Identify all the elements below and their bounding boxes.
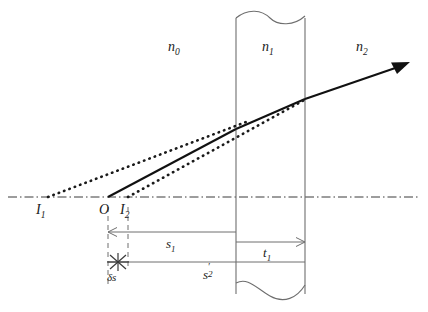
virtual-ray-from-i2 [128, 99, 306, 197]
slab-bottom-break-line [236, 281, 305, 299]
label-n0: n0 [168, 40, 180, 57]
label-t1: t1 [263, 246, 271, 262]
label-o: O [99, 203, 109, 217]
ray-inside-slab [236, 99, 305, 129]
label-n2: n2 [356, 40, 368, 57]
optics-ray-diagram-figure: n0 n1 n2 I1 O I2 s1 t1 s′2 δs [0, 0, 428, 312]
label-s1: s1 [166, 237, 175, 253]
label-i2: I2 [120, 203, 129, 220]
label-s2-prime: s′2 [203, 266, 216, 281]
label-n1: n1 [262, 40, 274, 57]
label-i1: I1 [36, 203, 45, 220]
slab-top-break-line [236, 11, 305, 24]
incident-ray-from-o [108, 129, 236, 197]
emergent-ray-to-n2 [305, 65, 404, 99]
label-delta-s: δs [107, 272, 116, 283]
